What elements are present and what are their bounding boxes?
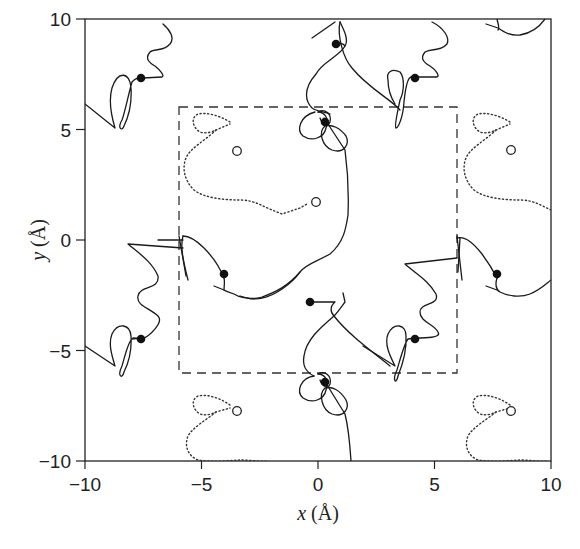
filled-marker: [411, 74, 420, 83]
y-axis-label: y (Å): [27, 219, 50, 263]
filled-marker: [321, 118, 330, 127]
filled-marker: [306, 298, 315, 307]
plot-frame: [85, 19, 551, 461]
y-tick-label: −10: [39, 451, 71, 472]
open-marker: [507, 407, 516, 416]
open-start-markers: [233, 146, 516, 416]
open-marker: [233, 147, 242, 156]
filled-marker: [321, 378, 330, 387]
open-marker: [507, 146, 516, 155]
y-tick-label: 10: [50, 9, 71, 30]
filled-marker: [137, 335, 146, 344]
y-tick-label: 5: [60, 120, 71, 141]
x-tick-label: 0: [313, 474, 324, 495]
x-tick-label: −10: [69, 474, 101, 495]
y-tick-label: 0: [60, 230, 71, 251]
filled-marker: [411, 335, 420, 344]
x-tick-label: −5: [191, 474, 213, 495]
unit-cell-box: [179, 107, 457, 373]
filled-marker: [332, 40, 341, 49]
open-marker: [312, 198, 321, 207]
filled-marker: [493, 270, 502, 279]
x-axis-label: x (Å): [296, 502, 339, 525]
x-tick-labels: −10 −5 0 5 10: [69, 474, 562, 495]
filled-marker: [220, 270, 229, 279]
open-marker: [233, 407, 242, 416]
filled-start-markers: [137, 40, 502, 387]
y-tick-label: −5: [49, 341, 71, 362]
solid-trajectories: [85, 19, 551, 461]
filled-marker: [137, 74, 146, 83]
y-axis-ticks: [76, 19, 85, 461]
x-axis-ticks: [85, 461, 551, 469]
x-tick-label: 5: [429, 474, 440, 495]
trajectory-plot: −10 −5 0 5 10 −10 −5 0 5 10 x (Å) y (Å): [0, 0, 580, 549]
x-tick-label: 10: [540, 474, 561, 495]
